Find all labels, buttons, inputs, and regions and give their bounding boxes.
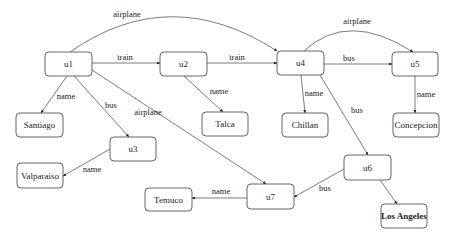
edge-u4-u5: bus bbox=[324, 53, 392, 64]
node-label: Los Angeles bbox=[381, 211, 427, 221]
node-label: u5 bbox=[411, 59, 421, 69]
edge-label: bus bbox=[319, 183, 331, 193]
node-label: u6 bbox=[363, 163, 373, 173]
edge-u7-temuco: name bbox=[192, 186, 247, 198]
edge-label: name bbox=[212, 186, 231, 196]
edge-u1-u3: bus bbox=[74, 76, 129, 137]
node-u2: u2 bbox=[160, 52, 207, 76]
node-label: u4 bbox=[296, 58, 306, 68]
node-u3: u3 bbox=[110, 137, 156, 161]
edge-u5-concepcion: name bbox=[415, 76, 435, 113]
edge-u1-u4: airplane bbox=[70, 9, 277, 52]
edge-label: name bbox=[417, 89, 436, 99]
edge-u6-los_angeles bbox=[380, 180, 397, 204]
edge-line bbox=[304, 31, 413, 52]
edge-u2-talca: name bbox=[184, 76, 228, 112]
node-chillan: Chillan bbox=[282, 113, 328, 137]
node-label: Concepcion bbox=[395, 120, 438, 130]
node-valparaiso: Valparaiso bbox=[17, 163, 63, 188]
edge-label: airplane bbox=[134, 107, 162, 117]
edge-label: name bbox=[57, 91, 76, 101]
edge-label: bus bbox=[105, 100, 117, 110]
edge-line bbox=[74, 76, 129, 137]
nodes-layer: u1u2u4u5SantiagoTalcaChillanConcepcionu3… bbox=[16, 51, 439, 228]
node-label: u7 bbox=[266, 192, 276, 202]
edge-u3-valparaiso: name bbox=[63, 149, 110, 176]
node-talca: Talca bbox=[202, 112, 248, 136]
edge-label: bus bbox=[351, 105, 363, 115]
edge-label: train bbox=[229, 52, 245, 62]
edge-label: name bbox=[305, 88, 324, 98]
edge-u1-santiago: name bbox=[41, 76, 75, 113]
node-temuco: Temuco bbox=[145, 188, 192, 211]
graph-diagram: airplanetraintrainairplanebusnamebusairp… bbox=[0, 0, 451, 243]
node-label: u2 bbox=[179, 59, 188, 69]
edge-line bbox=[380, 180, 397, 204]
edge-u4-chillan: name bbox=[301, 75, 323, 113]
node-label: Chillan bbox=[292, 120, 319, 130]
edge-label: bus bbox=[343, 53, 355, 63]
node-u5: u5 bbox=[392, 52, 438, 76]
node-concepcion: Concepcion bbox=[393, 113, 439, 137]
edge-line bbox=[70, 17, 277, 52]
node-label: Santiago bbox=[24, 120, 56, 130]
node-label: u3 bbox=[129, 144, 139, 154]
edge-u6-u7: bus bbox=[294, 169, 344, 197]
edge-u1-u2: train bbox=[92, 52, 160, 63]
node-los_angeles: Los Angeles bbox=[381, 204, 427, 228]
edge-label: train bbox=[117, 52, 133, 62]
edge-label: name bbox=[210, 86, 229, 96]
node-u1: u1 bbox=[45, 52, 92, 76]
node-label: u1 bbox=[64, 59, 73, 69]
node-santiago: Santiago bbox=[16, 113, 63, 137]
edge-label: airplane bbox=[343, 16, 371, 26]
edge-u4-u5: airplane bbox=[304, 16, 413, 52]
node-label: Temuco bbox=[154, 195, 183, 205]
node-u6: u6 bbox=[344, 155, 391, 180]
node-label: Valparaiso bbox=[21, 171, 59, 181]
edge-u2-u4: train bbox=[207, 52, 277, 63]
edge-label: name bbox=[83, 164, 102, 174]
node-label: Talca bbox=[215, 119, 234, 129]
node-u7: u7 bbox=[247, 184, 294, 209]
edge-label: airplane bbox=[113, 9, 141, 19]
node-u4: u4 bbox=[277, 51, 324, 75]
